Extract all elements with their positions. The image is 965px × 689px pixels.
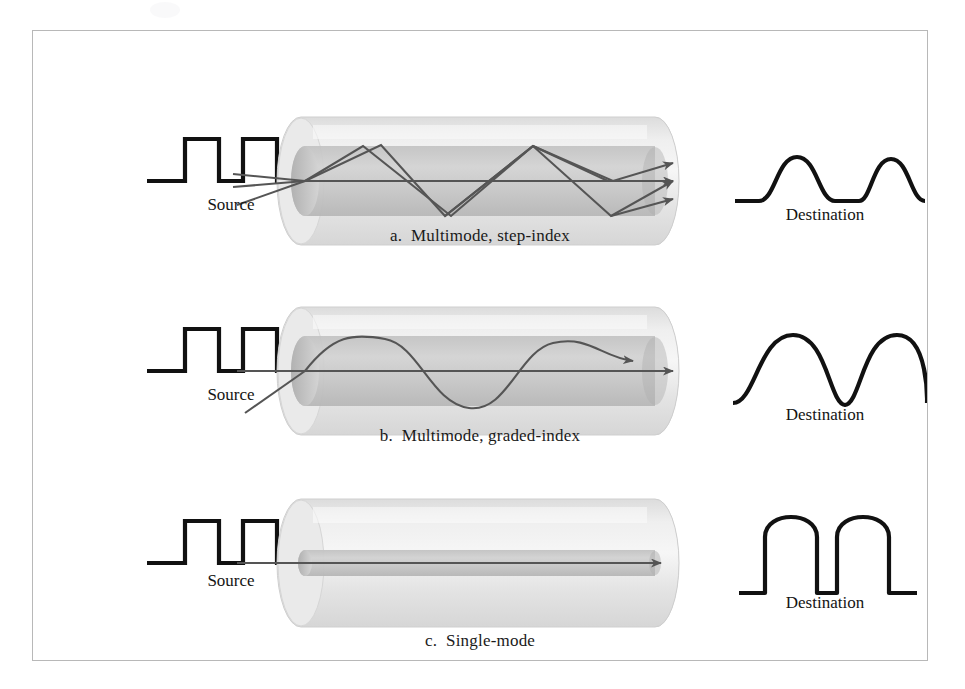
caption-a: a. Multimode, step-index xyxy=(33,226,927,246)
destination-label-c: Destination xyxy=(725,593,925,613)
source-label-c: Source xyxy=(131,571,331,591)
source-label-a: Source xyxy=(131,195,331,215)
panel-c-graphic xyxy=(33,453,927,658)
scan-artifact xyxy=(150,2,180,18)
destination-waveform-b xyxy=(733,335,927,405)
destination-label-b: Destination xyxy=(725,405,925,425)
panel-multimode-graded-index: Source Destination b. Multimode, graded-… xyxy=(33,253,927,453)
panel-single-mode: Source Destination c. Single-mode xyxy=(33,453,927,658)
caption-c: c. Single-mode xyxy=(33,631,927,651)
caption-b: b. Multimode, graded-index xyxy=(33,426,927,446)
destination-label-a: Destination xyxy=(725,205,925,225)
panel-multimode-step-index: Source Destination a. Multimode, step-in… xyxy=(33,53,927,253)
destination-waveform-c xyxy=(739,517,917,593)
figure-frame: Source Destination a. Multimode, step-in… xyxy=(32,30,928,661)
source-label-b: Source xyxy=(131,385,331,405)
destination-waveform-a xyxy=(735,157,925,201)
